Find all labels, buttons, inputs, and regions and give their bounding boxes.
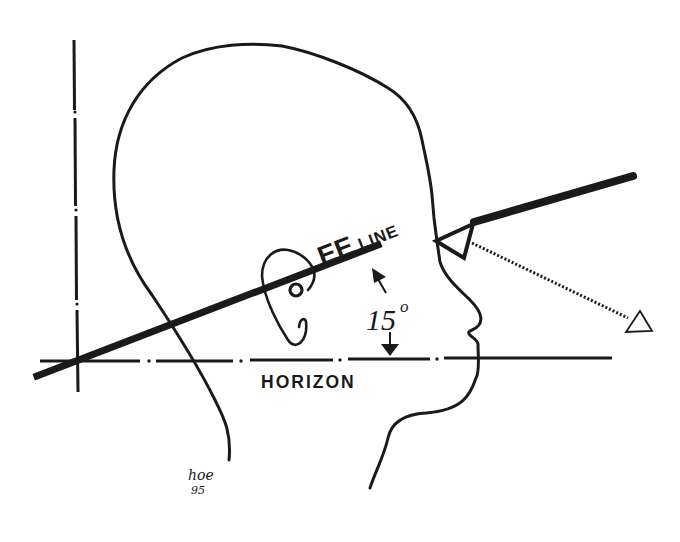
ear <box>262 250 314 345</box>
signature-name: hoe <box>188 467 214 483</box>
ee-line <box>37 176 633 376</box>
horizon-line <box>40 357 612 362</box>
angle-label: 15 o <box>366 297 409 336</box>
ee-line-diagram: EE LINE 15 o HORIZON hoe 95 <box>0 0 680 542</box>
signature-year: 95 <box>191 484 205 497</box>
vertical-reference-line <box>73 40 78 392</box>
head-outline <box>114 44 481 488</box>
eye-triangle <box>436 224 473 258</box>
angle-value: 15 <box>366 303 396 336</box>
arrow-down-icon <box>381 344 399 356</box>
horizon-label: HORIZON <box>261 372 356 392</box>
target-triangle <box>626 311 652 332</box>
ear-pivot-point <box>290 284 302 296</box>
ee-line-label: EE LINE <box>313 214 402 272</box>
artist-signature: hoe 95 <box>188 467 214 497</box>
degree-symbol: o <box>400 297 409 316</box>
sight-line <box>472 243 628 318</box>
